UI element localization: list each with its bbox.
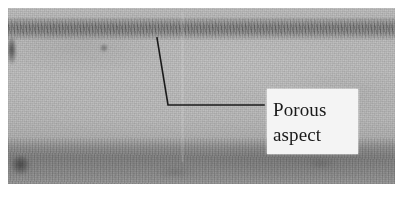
page-margin-right	[395, 0, 402, 197]
figure-root: Porous aspect	[0, 0, 402, 197]
callout-line-2: aspect	[273, 122, 321, 147]
page-margin-top	[0, 0, 402, 8]
page-margin-bottom	[0, 184, 402, 197]
callout-label-box: Porous aspect	[267, 89, 358, 154]
page-margin-left	[0, 0, 8, 197]
callout-line-1: Porous	[273, 97, 326, 122]
